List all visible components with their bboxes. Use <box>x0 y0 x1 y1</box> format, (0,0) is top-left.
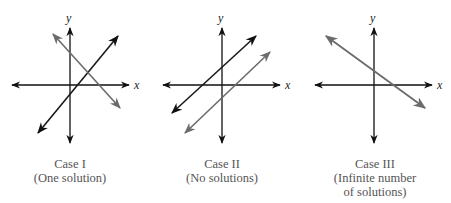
line-dark <box>172 36 256 113</box>
line-gray <box>326 36 425 108</box>
case-2-graph <box>163 28 280 143</box>
case-title: Case III <box>300 157 450 171</box>
x-label: x <box>284 78 291 92</box>
case-1-caption: Case I (One solution) <box>0 157 145 185</box>
case-3-caption: Case III (Infinite number of solutions) <box>300 157 450 199</box>
case-subtitle: (No solutions) <box>147 171 297 185</box>
case-1-graph <box>12 28 129 143</box>
line-gray <box>185 52 270 133</box>
x-label: x <box>133 78 140 92</box>
y-label: y <box>65 11 72 25</box>
case-2-caption: Case II (No solutions) <box>147 157 297 185</box>
case-3-graph <box>315 28 432 143</box>
case-subtitle: (Infinite number <box>300 171 450 185</box>
case-subtitle-line2: of solutions) <box>300 185 450 199</box>
case-title: Case I <box>0 157 145 171</box>
y-label: y <box>217 11 224 25</box>
case-subtitle: (One solution) <box>0 171 145 185</box>
x-label: x <box>436 78 443 92</box>
y-label: y <box>369 11 376 25</box>
case-title: Case II <box>147 157 297 171</box>
